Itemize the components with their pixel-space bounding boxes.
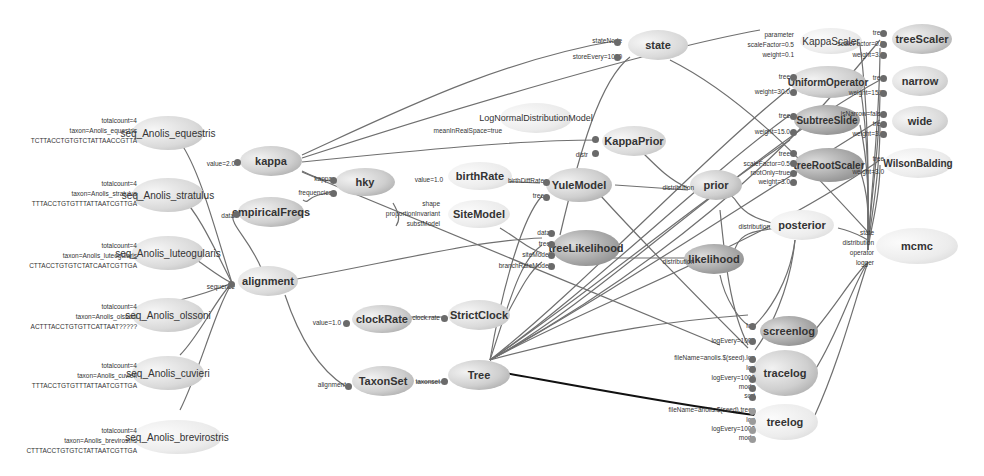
node-treerootscaler[interactable]: treeRootScaler [794,148,864,182]
port-dot [790,113,797,120]
node-seq-anolis-equestris[interactable]: seq_Anolis_equestris [132,116,204,150]
port-label: frequencies [298,189,332,196]
port-label: tree [779,150,790,157]
port-label: value=2.0 [207,160,235,167]
node-posterior[interactable]: posterior [770,210,834,240]
port-label: distribution [663,258,694,265]
port-dot [548,263,555,270]
port-label: weight=0.1 [762,51,794,58]
port-dot [790,150,797,157]
port-dot [330,177,337,184]
port-label: clock.rate [412,314,440,321]
node-sitemodel[interactable]: SiteModel [448,200,510,228]
port-label: substModel [407,220,440,227]
node-narrow[interactable]: narrow [892,66,948,96]
port-label: scaleFactor=0.5 [748,41,794,48]
port-dot [441,378,448,385]
node-seq-anolis-olssoni[interactable]: seq_Anolis_olssoni [132,298,204,332]
node-kappaprior[interactable]: KappaPrior [602,126,666,156]
node-seq-anolis-cuvieri[interactable]: seq_Anolis_cuvieri [132,356,204,390]
port-dot [790,129,797,136]
port-label: TTTACCTGTGTTTATTAATCGTTGA [32,382,137,389]
port-label: fileName=anolis.$(seed).trees [668,406,755,413]
port-label: CTTACCTGTGTCTATCAATCGTTGA [29,262,137,269]
node-alignment[interactable]: alignment [238,266,298,296]
port-label: tree [779,73,790,80]
port-label: value=1.0 [415,176,443,183]
node-seq-anolis-stratulus[interactable]: seq_Anolis_stratulus [132,178,204,212]
port-dot [543,179,550,186]
port-label: scaleFactor=0.5 [838,40,884,47]
port-label: rootOnly=true [750,169,790,176]
port-label: taxon=Anolis_equestris [70,127,137,134]
port-dot [614,54,621,61]
node-seq-anolis-brevirostris[interactable]: seq_Anolis_brevirostris [132,420,222,454]
node-hky[interactable]: hky [335,168,395,196]
node-lognormaldistributionmodel[interactable]: LogNormalDistributionModel [500,103,572,133]
port-label: totalcount=4 [101,362,137,369]
port-dot [543,194,550,201]
node-taxonset[interactable]: TaxonSet [352,366,414,396]
port-label: scaleFactor=0.5 [744,160,790,167]
node-screenlog[interactable]: screenlog [760,316,818,346]
port-dot [749,394,756,401]
port-label: taxon=Anolis_brevirostris [64,437,137,444]
node-tracelog[interactable]: tracelog [752,350,818,396]
port-label: ACTTTACCTGTGTTCATTAAT????? [31,323,137,330]
port-label: TTTACCTGTGTTTATTAATCGTTGA [32,200,137,207]
port-label: taxon=Anolis_stratulus [71,190,137,197]
node-treelog[interactable]: treelog [752,404,818,440]
port-dot [790,170,797,177]
node-strictclock[interactable]: StrictClock [448,300,510,330]
node-empiricalfreqs[interactable]: empiricalFreqs [238,197,304,227]
port-dot [790,74,797,81]
port-dot [880,90,887,97]
port-label: taxon=Anolis_cuvieri [77,372,137,379]
port-dot [790,160,797,167]
port-dot [343,320,350,327]
port-dot [880,75,887,82]
node-treescaler[interactable]: treeScaler [892,24,952,54]
node-wilsonbalding[interactable]: WilsonBalding [884,148,952,178]
port-dot [749,366,756,373]
port-label: distr [576,151,588,158]
port-dot [790,179,797,186]
node-kappa[interactable]: kappa [240,146,302,176]
port-dot [880,121,887,128]
port-dot [749,338,756,345]
port-dot [548,241,555,248]
node-mcmc[interactable]: mcmc [876,228,958,264]
port-label: weight=3.0 [852,168,884,175]
port-label: parameter [764,31,794,38]
port-dot [749,418,756,425]
port-dot [749,356,756,363]
port-label: meanInRealSpace=true [434,127,502,134]
node-clockrate[interactable]: clockRate [352,305,412,333]
port-dot [790,89,797,96]
port-label: distribution [663,184,694,191]
port-dot [749,385,756,392]
port-dot [880,52,887,59]
port-label: CTTTACCTGTGTCTATTAATCGTTGA [26,447,137,454]
port-dot [880,30,887,37]
port-label: proportionInvariant [386,210,440,217]
node-birthrate[interactable]: birthRate [448,162,512,190]
node-treelikelihood[interactable]: treeLikelihood [552,230,620,266]
node-seq-anolis-luteogularis[interactable]: seq_Anolis_luteogularis [132,236,204,270]
node-tree[interactable]: Tree [448,360,510,390]
node-wide[interactable]: wide [892,106,948,136]
port-label: birthDiffRate [508,177,544,184]
node-yulemodel[interactable]: YuleModel [546,168,612,202]
port-dot [592,150,599,157]
node-prior[interactable]: prior [690,170,742,200]
port-label: totalcount=4 [101,303,137,310]
node-state[interactable]: state [628,30,688,60]
port-dot [548,230,555,237]
port-dot [749,376,756,383]
port-dot [749,408,756,415]
port-dot [592,136,599,143]
port-label: taxon=Anolis_luteogularis [63,252,137,259]
port-dot [749,323,756,330]
model-graph-canvas: seq_Anolis_equestris totalcount=4 taxon=… [0,0,984,476]
port-label: tree [779,112,790,119]
